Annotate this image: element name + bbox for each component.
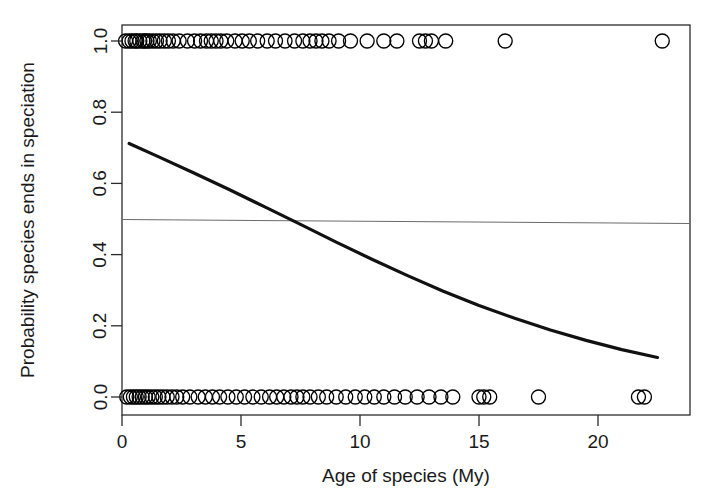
speciation-probability-chart: 05101520 0.00.20.40.60.81.0 Age of speci… [0, 0, 710, 503]
x-axis-title: Age of species (My) [322, 465, 490, 486]
y-tick-label: 0.6 [90, 170, 111, 196]
y-tick-label: 0.2 [90, 313, 111, 339]
x-tick-label: 0 [117, 431, 128, 452]
y-tick-label: 0.8 [90, 99, 111, 125]
x-tick-label: 15 [468, 431, 489, 452]
y-tick-label: 0.0 [90, 384, 111, 410]
y-tick-label: 0.4 [90, 241, 111, 268]
y-tick-label: 1.0 [90, 28, 111, 54]
x-tick-label: 5 [236, 431, 247, 452]
y-axis-title: Probability species ends in speciation [17, 62, 38, 378]
x-tick-label: 10 [349, 431, 370, 452]
x-tick-label: 20 [587, 431, 608, 452]
